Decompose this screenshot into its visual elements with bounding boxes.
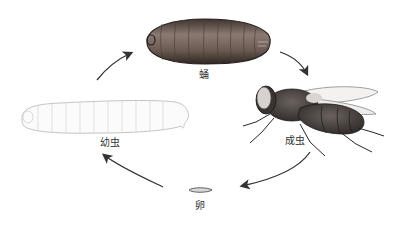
adult-fly-illustration bbox=[243, 86, 384, 156]
arrow-egg-to-larva bbox=[104, 155, 163, 187]
adult-label: 成虫 bbox=[285, 132, 305, 147]
pupa-illustration bbox=[147, 19, 270, 64]
larva-label: 幼虫 bbox=[100, 134, 120, 149]
life-cycle-diagram: 蛹 成虫 卵 幼虫 bbox=[0, 0, 400, 227]
pupa-label: 蛹 bbox=[199, 66, 209, 81]
egg-illustration bbox=[189, 188, 212, 193]
arrow-larva-to-pupa bbox=[97, 53, 131, 80]
diagram-graphics bbox=[0, 0, 400, 227]
arrow-pupa-to-adult bbox=[280, 52, 307, 74]
egg-label: 卵 bbox=[195, 197, 205, 212]
arrow-adult-to-egg bbox=[242, 152, 310, 186]
larva-illustration bbox=[22, 100, 188, 133]
